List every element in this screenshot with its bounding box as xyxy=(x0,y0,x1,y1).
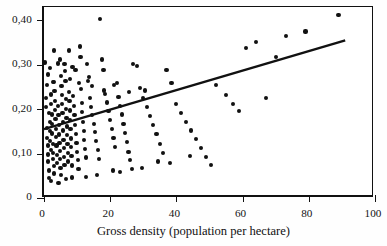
x-tick-label: 40 xyxy=(154,208,194,219)
y-tick-label: 0 xyxy=(0,191,32,202)
x-axis-title: Gross density (population per hectare) xyxy=(0,224,387,238)
x-tick xyxy=(44,195,45,202)
y-tick-label: 0,30 xyxy=(0,58,32,69)
trend-line-svg xyxy=(44,7,375,198)
x-tick-label: 80 xyxy=(287,208,327,219)
x-tick xyxy=(243,195,244,202)
x-tick-label: 100 xyxy=(353,208,387,219)
x-tick xyxy=(375,195,376,202)
plot-area xyxy=(42,6,373,197)
x-tick-label: 60 xyxy=(221,208,261,219)
y-tick xyxy=(37,198,44,199)
y-tick-label: 0,20 xyxy=(0,103,32,114)
x-tick xyxy=(176,195,177,202)
x-tick xyxy=(110,195,111,202)
y-tick-label: 0,40 xyxy=(0,14,32,25)
y-tick xyxy=(37,109,44,110)
x-tick-label: 20 xyxy=(88,208,128,219)
x-tick xyxy=(309,195,310,202)
y-tick xyxy=(37,65,44,66)
y-tick-label: 0,10 xyxy=(0,147,32,158)
scatter-plot-figure: 00,100,200,300,40 020406080100 Gross den… xyxy=(0,0,387,246)
x-tick-label: 0 xyxy=(22,208,62,219)
regression-line xyxy=(44,40,345,129)
y-tick xyxy=(37,154,44,155)
y-tick xyxy=(37,20,44,21)
